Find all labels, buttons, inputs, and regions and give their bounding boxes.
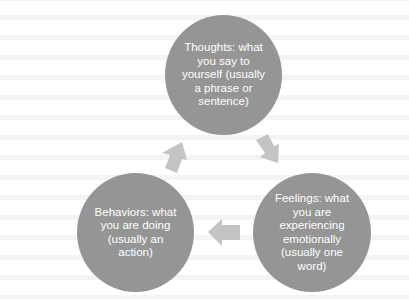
node-feelings-label: Feelings: what you are experiencing emot… [266,192,358,273]
node-thoughts-label: Thoughts: what you say to yourself (usua… [180,41,268,109]
node-behaviors-label: Behaviors: what you are doing (usually a… [94,206,178,260]
node-behaviors: Behaviors: what you are doing (usually a… [77,173,194,292]
node-thoughts: Thoughts: what you say to yourself (usua… [165,15,282,135]
arrow-thoughts-to-feelings-icon [248,130,288,170]
arrow-feelings-to-behaviors-icon [206,218,246,248]
node-feelings: Feelings: what you are experiencing emot… [253,173,371,292]
arrow-behaviors-to-thoughts-icon [160,140,200,180]
